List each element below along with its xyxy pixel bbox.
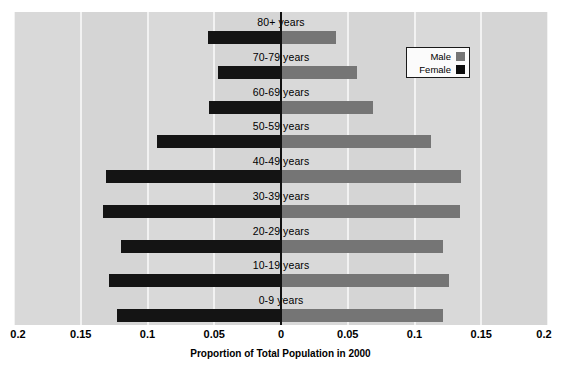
x-tick-label: 0.1 [407,328,422,340]
bar-male [281,66,357,79]
legend-swatch-female-icon [456,65,465,74]
bar-female [106,170,281,183]
bar-female [117,309,281,322]
legend-entry-female: Female [409,63,465,76]
x-tick-label: 0.2 [536,328,551,340]
bar-female [109,274,281,287]
bar-male [281,240,443,253]
bar-male [281,135,431,148]
legend-label-male: Male [430,50,451,63]
bar-male [281,274,449,287]
bar-male [281,101,373,114]
x-tick-label: 0.05 [204,328,225,340]
x-tick-label: 0.1 [140,328,155,340]
zero-axis-line [280,12,282,325]
x-axis-ticks: 0.20.150.10.0500.050.10.150.2 [0,328,561,346]
bar-female [157,135,281,148]
bar-female [103,205,281,218]
bar-male [281,170,461,183]
x-tick-label: 0 [278,328,284,340]
legend-entry-male: Male [409,50,465,63]
bar-male [281,205,460,218]
legend-swatch-male-icon [456,52,465,61]
bar-female [208,31,281,44]
x-tick-label: 0.2 [10,328,25,340]
bar-female [121,240,281,253]
x-tick-label: 0.15 [471,328,492,340]
bar-female [218,66,281,79]
bar-female [209,101,281,114]
bar-male [281,31,336,44]
legend-label-female: Female [419,63,451,76]
chart-legend: Male Female [406,47,470,78]
x-tick-label: 0.05 [337,328,358,340]
bar-male [281,309,443,322]
x-tick-label: 0.15 [70,328,91,340]
chart-figure: 80+ years70-79 years60-69 years50-59 yea… [0,0,561,366]
x-axis-title: Proportion of Total Population in 2000 [0,348,561,359]
